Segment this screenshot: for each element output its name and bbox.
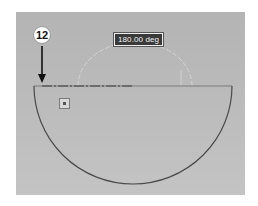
preview-arc: [78, 42, 192, 86]
step-number-badge: 12: [33, 26, 51, 44]
arrow-head: [38, 74, 46, 83]
angle-dimension-label[interactable]: 180.00 deg: [114, 33, 163, 46]
screenshot-frame: 12 180.00 deg: [0, 0, 258, 206]
dimension-handle-icon[interactable]: [59, 98, 70, 109]
